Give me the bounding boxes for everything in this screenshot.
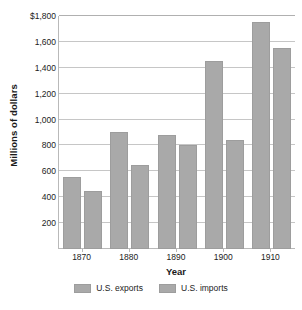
bar-group <box>110 16 149 249</box>
bar-chart-figure: Millions of dollars 2004006008001,0001,2… <box>0 0 302 310</box>
legend-item[interactable]: U.S. exports <box>74 283 143 293</box>
bar[interactable] <box>205 61 223 249</box>
bar-group <box>205 16 244 249</box>
bar[interactable] <box>273 48 291 249</box>
y-axis-title-text: Millions of dollars <box>8 84 19 167</box>
y-tick-label: 1,600 <box>20 37 56 47</box>
y-tick-label: 1,400 <box>20 63 56 73</box>
bar[interactable] <box>63 177 81 249</box>
bar[interactable] <box>110 132 128 249</box>
bar[interactable] <box>158 135 176 249</box>
legend-swatch-icon <box>159 284 176 293</box>
legend-swatch-icon <box>74 284 91 293</box>
bar[interactable] <box>131 165 149 249</box>
bar[interactable] <box>179 145 197 249</box>
legend-item[interactable]: U.S. imports <box>159 283 228 293</box>
x-tick-label: 1890 <box>167 252 186 262</box>
x-tick-label: 1880 <box>119 252 138 262</box>
x-tick-label: 1900 <box>214 252 233 262</box>
x-axis-tick-labels: 18701880189019001910 <box>58 252 294 266</box>
y-tick-label: 1,200 <box>20 89 56 99</box>
bar[interactable] <box>84 191 102 249</box>
plot-area <box>58 16 295 249</box>
bar-group <box>158 16 197 249</box>
legend-label: U.S. imports <box>181 283 228 293</box>
y-tick-label: 600 <box>20 166 56 176</box>
bar[interactable] <box>252 22 270 249</box>
y-tick-label: 800 <box>20 140 56 150</box>
bar-group <box>63 16 102 249</box>
y-tick-label: 1,000 <box>20 115 56 125</box>
bar[interactable] <box>226 140 244 249</box>
y-tick-label: 200 <box>20 218 56 228</box>
legend-label: U.S. exports <box>96 283 143 293</box>
x-tick-label: 1870 <box>72 252 91 262</box>
bars-container <box>59 16 295 249</box>
y-axis-tick-labels: 2004006008001,0001,2001,4001,600$1,800 <box>20 10 56 250</box>
y-tick-label: $1,800 <box>20 11 56 21</box>
bar-group <box>252 16 291 249</box>
y-tick-label: 400 <box>20 192 56 202</box>
x-axis-title: Year <box>58 266 294 277</box>
x-tick-label: 1910 <box>261 252 280 262</box>
chart-legend: U.S. exportsU.S. imports <box>0 283 302 293</box>
